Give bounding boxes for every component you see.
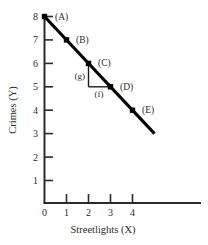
- y-axis-title: Crimes (Y): [7, 86, 19, 134]
- y-tick-label-3: 3: [33, 128, 38, 139]
- y-tick-label-1: 1: [33, 175, 38, 186]
- data-point-e: [130, 108, 135, 113]
- data-point-label-b: (B): [76, 35, 89, 46]
- x-tick-label-4: 4: [130, 207, 135, 218]
- data-point-b: [64, 37, 69, 42]
- slope-leg-label-g: (g): [75, 71, 86, 81]
- y-tick-label-8: 8: [33, 11, 38, 22]
- scatter-line-chart: 8 7 6 5 4 3 2 1 0 1 2 3 4 (A) (B) (C) (D…: [0, 0, 208, 245]
- data-line: [45, 17, 155, 134]
- data-point-a: [42, 14, 47, 19]
- y-tick-label-6: 6: [33, 58, 38, 69]
- data-point-label-d: (D): [120, 82, 133, 93]
- data-point-label-a: (A): [55, 12, 68, 23]
- data-point-c: [86, 61, 91, 66]
- data-point-label-c: (C): [98, 58, 111, 69]
- x-axis-title: Streetlights (X): [70, 224, 136, 236]
- x-tick-label-2: 2: [86, 207, 91, 218]
- x-tick-label-1: 1: [64, 207, 69, 218]
- data-point-d: [108, 84, 113, 89]
- x-tick-label-0: 0: [42, 207, 47, 218]
- x-tick-label-3: 3: [108, 207, 113, 218]
- y-tick-label-7: 7: [33, 34, 38, 45]
- data-point-label-e: (E): [142, 105, 154, 116]
- chart-canvas: 8 7 6 5 4 3 2 1 0 1 2 3 4 (A) (B) (C) (D…: [0, 0, 208, 245]
- y-tick-label-4: 4: [33, 105, 38, 116]
- slope-leg-label-f: (f): [95, 89, 104, 99]
- y-tick-label-2: 2: [33, 152, 38, 163]
- y-tick-label-5: 5: [33, 81, 38, 92]
